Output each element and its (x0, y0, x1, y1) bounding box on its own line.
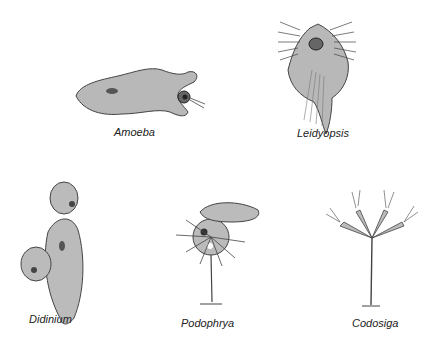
label-leidyopsis: Leidyopsis (297, 127, 349, 139)
label-podophrya: Podophrya (181, 317, 234, 329)
label-codosiga: Codosiga (352, 317, 398, 329)
didinium-drawing (21, 182, 83, 324)
label-didinium: Didinium (29, 313, 72, 325)
label-amoeba: Amoeba (114, 126, 155, 138)
amoeba-drawing (76, 69, 205, 116)
codosiga-drawing (326, 190, 418, 306)
protozoa-illustration (0, 0, 443, 347)
podophrya-drawing (176, 203, 259, 304)
leidyopsis-drawing (278, 22, 356, 134)
